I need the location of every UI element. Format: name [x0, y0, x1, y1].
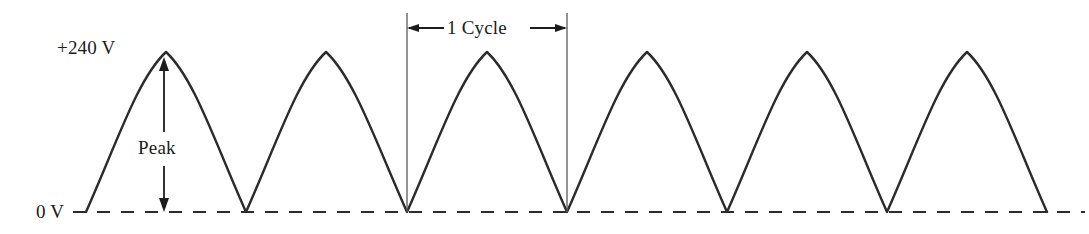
zero-voltage-label: 0 V [36, 202, 64, 221]
waveform-diagram: +240 V 0 V Peak 1 Cycle [0, 0, 1089, 234]
cycle-right-arrow [530, 24, 567, 32]
peak-up-arrow [159, 57, 169, 132]
cycle-annotation-label: 1 Cycle [447, 18, 507, 37]
peak-down-arrow [159, 166, 169, 212]
peak-voltage-label: +240 V [57, 38, 116, 57]
cycle-left-arrow [407, 24, 444, 32]
waveform-canvas [0, 0, 1089, 234]
peak-annotation-label: Peak [138, 138, 176, 157]
